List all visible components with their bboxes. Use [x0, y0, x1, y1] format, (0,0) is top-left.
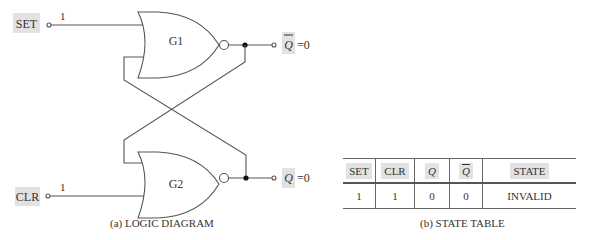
header-q: Q: [415, 159, 450, 184]
table-row: 1 1 0 0 INVALID: [343, 183, 576, 209]
q-symbol: Q: [284, 171, 293, 185]
cell-q-bar: 0: [450, 183, 483, 209]
state-table-caption: (b) STATE TABLE: [420, 217, 505, 229]
g2-inverter-bubble: [220, 174, 229, 183]
header-state: STATE: [483, 159, 577, 184]
clr-value: 1: [60, 181, 66, 193]
header-set: SET: [343, 159, 376, 184]
cell-q: 0: [415, 183, 450, 209]
state-table-header-row: SET CLR Q Q STATE: [343, 159, 576, 184]
set-terminal: [47, 23, 51, 27]
clr-label: CLR: [16, 190, 39, 204]
q-equals: =0: [297, 171, 310, 185]
q-terminal: [272, 176, 276, 180]
cell-state: INVALID: [483, 183, 577, 209]
state-table: SET CLR Q Q STATE 1 1 0 0 INVALID: [343, 158, 576, 209]
g1-inverter-bubble: [220, 41, 229, 50]
q-bar-equals: =0: [297, 38, 310, 52]
cell-set: 1: [343, 183, 376, 209]
q-bar-terminal: [272, 43, 276, 47]
header-q-bar: Q: [450, 159, 483, 184]
cell-clr: 1: [376, 183, 415, 209]
set-label: SET: [16, 17, 38, 31]
logic-diagram-caption: (a) LOGIC DIAGRAM: [110, 217, 214, 229]
gate-g2-label: G2: [169, 177, 184, 191]
header-clr: CLR: [376, 159, 415, 184]
q-junction: [243, 175, 248, 180]
clr-terminal: [46, 194, 50, 198]
set-value: 1: [60, 10, 66, 22]
gate-g1-label: G1: [169, 34, 184, 48]
q-bar-symbol: Q: [284, 38, 293, 52]
